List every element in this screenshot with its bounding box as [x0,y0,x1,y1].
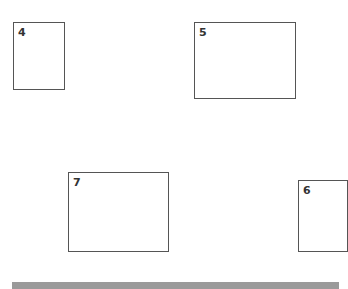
box-7[interactable]: 7 [68,172,169,252]
box-label: 7 [73,176,81,189]
box-6[interactable]: 6 [298,180,348,252]
box-4[interactable]: 4 [13,22,65,90]
box-label: 5 [199,26,207,39]
box-label: 4 [18,26,26,39]
box-5[interactable]: 5 [194,22,296,99]
bottom-bar [12,282,339,289]
box-label: 6 [303,184,311,197]
